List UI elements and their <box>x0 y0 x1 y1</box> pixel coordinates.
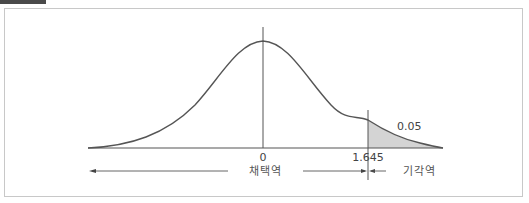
normal-distribution-chart: 0 1.645 0.05 채택역 기각역 <box>0 0 529 203</box>
normal-curve <box>88 41 443 148</box>
arrow-head-left-icon <box>89 169 96 173</box>
tick-label-zero: 0 <box>260 151 267 164</box>
rejection-region-label: 기각역 <box>403 165 436 178</box>
alpha-label: 0.05 <box>397 120 422 133</box>
acceptance-region-label: 채택역 <box>249 165 282 178</box>
arrow-head-right-icon <box>361 169 367 173</box>
tick-label-critical: 1.645 <box>352 151 384 164</box>
